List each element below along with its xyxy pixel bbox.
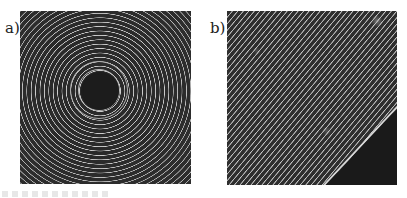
panel-a-label: a) — [5, 21, 20, 36]
panel-a-dark-center — [83, 74, 117, 108]
panel-a-circular-fringes-image — [20, 11, 191, 184]
panel-b-label: b) — [210, 21, 225, 36]
panel-b-linear-fringes-image — [227, 11, 397, 185]
caption-fragment — [2, 191, 112, 197]
